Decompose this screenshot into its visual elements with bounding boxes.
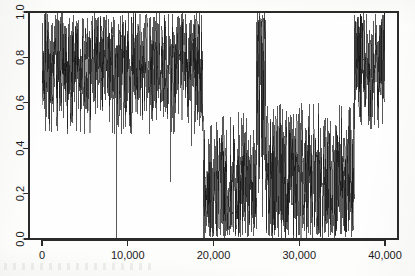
time-series-chart-figure: 0.00.20.40.60.81.0 010,00020,00030,00040… (0, 0, 415, 276)
x-axis-tick-label: 20,000 (197, 249, 231, 261)
screenshot-root: 0.00.20.40.60.81.0 010,00020,00030,00040… (0, 0, 415, 276)
plot-canvas: 0.00.20.40.60.81.0 010,00020,00030,00040… (0, 0, 415, 276)
x-axis-tick-label: 30,000 (282, 249, 316, 261)
y-axis-tick-label: 0.8 (14, 50, 26, 65)
x-axis-tick-label: 10,000 (111, 249, 145, 261)
x-axis-tick-label: 0 (39, 249, 45, 261)
y-axis-tick-label: 0.0 (14, 231, 26, 246)
y-axis-tick-label: 0.4 (14, 141, 26, 156)
y-axis-tick-label: 0.6 (14, 95, 26, 110)
y-axis-tick-label: 0.2 (14, 186, 26, 201)
x-axis-tick-label: 40,000 (368, 249, 402, 261)
y-axis-tick-label: 1.0 (14, 4, 26, 19)
